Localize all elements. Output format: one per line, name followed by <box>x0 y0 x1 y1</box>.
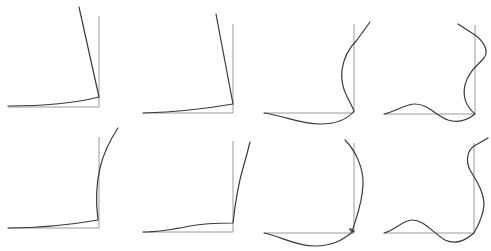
deformed-shape-curve <box>8 128 118 228</box>
deformed-shape-curve <box>143 142 250 232</box>
undeformed-frame-line <box>264 143 354 233</box>
mode-shape-figure <box>0 0 491 251</box>
undeformed-frame-line <box>143 141 233 232</box>
mode-panel-mode-2-row-1 <box>143 14 233 113</box>
panel-grid <box>8 7 488 246</box>
mode-panel-mode-3-row-2 <box>264 140 363 246</box>
undeformed-frame-line <box>143 24 233 113</box>
mode-panel-mode-4-row-2 <box>384 138 488 242</box>
mode-panel-mode-4-row-1 <box>384 24 486 121</box>
mode-panel-mode-1-row-2 <box>8 128 118 228</box>
deformed-shape-curve <box>384 24 486 121</box>
undeformed-frame-line <box>8 16 99 107</box>
undeformed-frame-line <box>8 137 99 228</box>
deformed-shape-curve <box>384 138 488 242</box>
mode-shape-canvas <box>0 0 491 251</box>
mode-panel-mode-2-row-2 <box>143 141 250 232</box>
mode-panel-mode-1-row-1 <box>8 7 99 107</box>
mode-panel-mode-3-row-1 <box>264 22 370 124</box>
deformed-shape-curve <box>143 14 233 113</box>
deformed-shape-curve <box>8 7 99 106</box>
undeformed-frame-line <box>264 24 354 113</box>
undeformed-frame-line <box>384 25 475 114</box>
deformed-shape-curve <box>264 140 363 246</box>
undeformed-frame-line <box>384 143 474 233</box>
